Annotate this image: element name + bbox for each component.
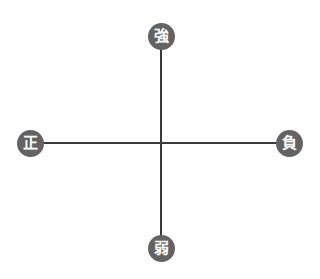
- horizontal-axis-line: [30, 142, 289, 144]
- node-weak-label: 弱: [154, 241, 169, 256]
- node-positive-label: 正: [23, 136, 38, 151]
- node-weak: 弱: [148, 235, 175, 262]
- node-positive: 正: [17, 130, 44, 157]
- node-strong-label: 強: [154, 29, 169, 44]
- node-negative-label: 負: [282, 136, 297, 151]
- node-strong: 強: [148, 23, 175, 50]
- node-negative: 負: [276, 130, 303, 157]
